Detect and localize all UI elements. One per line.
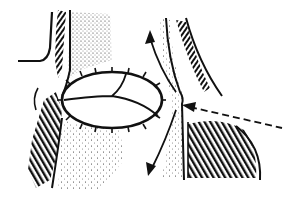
up-arrow (145, 30, 155, 44)
anatomical-illustration (0, 0, 298, 197)
central-stippled-strip (160, 18, 184, 178)
pointer-arrowhead (182, 102, 196, 112)
sutured-oval-valve (62, 72, 162, 128)
left-tissue-wall (18, 12, 52, 61)
right-hatched-band (176, 20, 210, 92)
left-small-arc (34, 88, 38, 110)
hatched-left-muscle (55, 10, 66, 78)
illustration-svg (0, 0, 298, 197)
right-hatched-tissue (188, 121, 256, 178)
hatched-left-muscle-lower (28, 92, 62, 188)
stippled-left-column (68, 12, 112, 80)
stippled-left-column-lower (58, 120, 124, 190)
